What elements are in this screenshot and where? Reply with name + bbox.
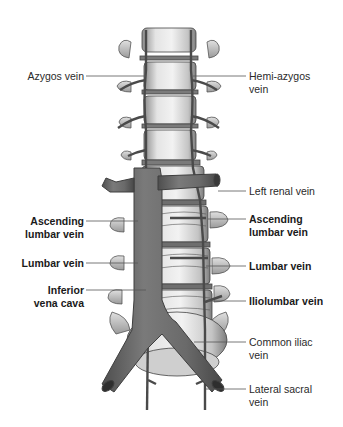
label-azygos-vein: Azygos vein	[27, 70, 84, 83]
label-lateral-sacral-vein: Lateral sacral vein	[249, 383, 312, 408]
label-ascending-lumbar-vein-left: Ascending lumbar vein	[25, 215, 84, 240]
label-lumbar-vein-right: Lumbar vein	[249, 260, 311, 273]
label-ascending-lumbar-vein-right: Ascending lumbar vein	[249, 213, 308, 238]
label-inferior-vena-cava: Inferior vena cava	[34, 284, 84, 309]
label-left-renal-vein: Left renal vein	[249, 185, 315, 198]
label-iliolumbar-vein: Iliolumbar vein	[249, 295, 323, 308]
label-common-iliac-vein: Common iliac vein	[249, 336, 313, 361]
label-hemi-azygos-vein: Hemi-azygos vein	[249, 70, 310, 95]
anatomy-figure: Azygos vein Ascending lumbar vein Lumbar…	[0, 0, 343, 427]
label-lumbar-vein-left: Lumbar vein	[22, 257, 84, 270]
